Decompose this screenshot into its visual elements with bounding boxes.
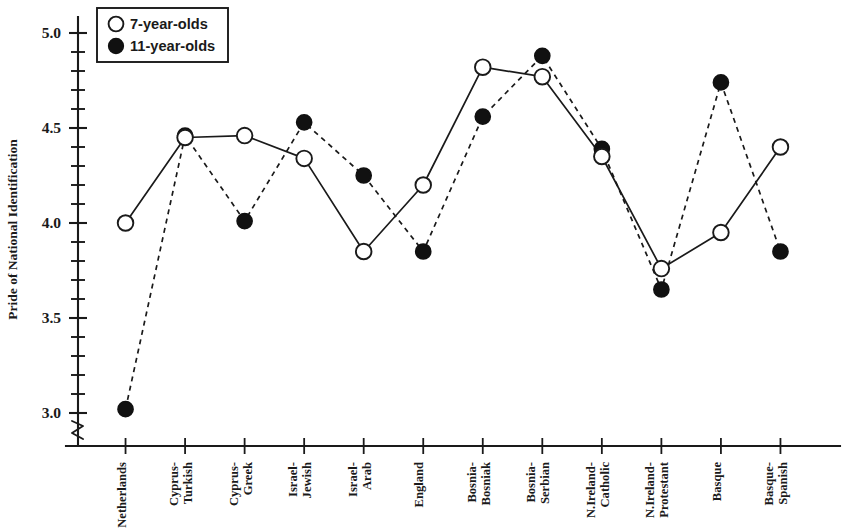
- x-axis-tick-label: N.Ireland-: [643, 462, 657, 518]
- x-axis: [66, 438, 840, 454]
- data-point: [296, 151, 312, 167]
- data-point: [118, 402, 133, 417]
- x-axis-tick-label: Serbian: [538, 462, 552, 504]
- data-point: [654, 261, 670, 277]
- x-axis-tick-label: Basque: [710, 462, 724, 502]
- data-point: [535, 48, 550, 63]
- y-axis: 3.03.54.04.55.0: [42, 17, 87, 446]
- axis-break-icon: [72, 421, 83, 439]
- x-axis-tick-label: Bosniak: [479, 462, 493, 505]
- y-axis-tick-label: 4.0: [42, 214, 62, 231]
- figure-container: Pride of National Identification 3.03.54…: [0, 0, 845, 531]
- x-axis-tick-label: England: [412, 462, 426, 508]
- x-axis-tick-label: Israel-: [346, 462, 360, 497]
- data-point: [177, 130, 193, 146]
- data-point: [297, 115, 312, 130]
- x-axis-tick-label: Basque-: [762, 462, 776, 505]
- x-axis-tick-label: Israel-: [286, 462, 300, 497]
- data-point: [773, 139, 789, 155]
- legend-marker-filled-circle: [109, 39, 124, 54]
- data-point: [237, 128, 253, 144]
- x-axis-tick-label: Bosnia-: [524, 462, 538, 503]
- data-point: [594, 149, 610, 165]
- x-axis-tick-label: Cyprus-: [167, 462, 181, 506]
- x-axis-tick-label: Greek: [241, 462, 255, 495]
- data-point: [415, 177, 431, 193]
- x-axis-tick-label: Netherlands: [115, 462, 129, 528]
- y-axis-tick-label: 3.0: [42, 404, 62, 421]
- x-axis-tick-label: Spanish: [776, 462, 790, 505]
- x-axis-tick-label: N.Ireland-: [584, 462, 598, 518]
- y-axis-tick-label: 3.5: [42, 309, 62, 326]
- data-point: [713, 75, 728, 90]
- y-axis-tick-label: 5.0: [42, 24, 62, 41]
- data-point: [773, 244, 788, 259]
- data-point: [416, 244, 431, 259]
- x-axis-tick-label: Cyprus-: [227, 462, 241, 506]
- data-point: [475, 59, 491, 75]
- series-line-7-year-olds: [126, 67, 781, 268]
- chart-legend: 7-year-olds11-year-olds: [97, 8, 228, 62]
- series-markers: [118, 48, 789, 417]
- y-axis-tick-label: 4.5: [42, 119, 62, 136]
- legend-label: 11-year-olds: [130, 38, 215, 54]
- x-axis-labels: NetherlandsCyprus-TurkishCyprus-GreekIsr…: [115, 461, 791, 528]
- data-point: [713, 225, 729, 241]
- series-lines: [126, 56, 781, 409]
- x-axis-tick-label: Bosnia-: [465, 462, 479, 503]
- data-point: [356, 168, 371, 183]
- legend-marker-open-circle: [109, 17, 124, 32]
- x-axis-tick-label: Protestant: [657, 461, 671, 518]
- series-line-11-year-olds: [126, 56, 781, 409]
- x-axis-tick-label: Jewish: [300, 462, 314, 498]
- data-point: [535, 69, 551, 85]
- x-axis-tick-label: Turkish: [181, 462, 195, 504]
- data-point: [475, 109, 490, 124]
- data-point: [654, 282, 669, 297]
- y-axis-title-text: Pride of National Identification: [5, 139, 20, 320]
- data-point: [237, 214, 252, 229]
- data-point: [118, 215, 134, 231]
- y-axis-title: Pride of National Identification: [5, 139, 20, 320]
- x-axis-tick-label: Arab: [360, 462, 374, 490]
- line-chart: Pride of National Identification 3.03.54…: [0, 0, 845, 531]
- data-point: [356, 244, 372, 260]
- x-axis-tick-label: Catholic: [598, 462, 612, 508]
- legend-label: 7-year-olds: [130, 16, 208, 32]
